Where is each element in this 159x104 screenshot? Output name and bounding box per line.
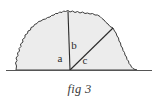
label-c: c (83, 54, 88, 66)
figure-caption: fig 3 (0, 82, 159, 97)
figure-page: a b c fig 3 (0, 0, 159, 104)
label-a: a (58, 52, 63, 64)
label-b: b (71, 39, 77, 51)
